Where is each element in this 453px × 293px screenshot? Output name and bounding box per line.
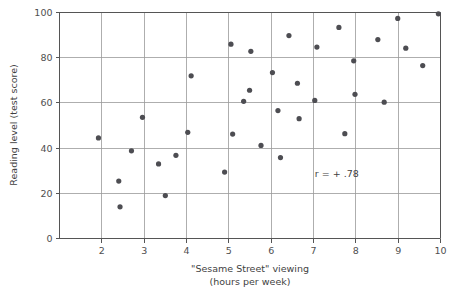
- correlation-annotation: r = + .78: [315, 168, 359, 179]
- data-point: [228, 42, 233, 47]
- y-tick-label: 100: [34, 7, 52, 18]
- data-point: [278, 155, 283, 160]
- chart-canvas: 2345678910 020406080100 r = + .78 "Sesam…: [0, 0, 453, 293]
- data-point: [258, 143, 263, 148]
- data-point: [163, 193, 168, 198]
- x-tick-label: 9: [395, 245, 401, 256]
- y-axis-title: Reading level (test score): [8, 64, 19, 185]
- data-point: [185, 130, 190, 135]
- data-point: [286, 33, 291, 38]
- plot-frame: [60, 13, 441, 239]
- data-point: [275, 108, 280, 113]
- data-point: [156, 161, 161, 166]
- x-tick-label: 8: [353, 245, 359, 256]
- plot-border: [60, 13, 441, 239]
- x-tick-label: 2: [99, 245, 105, 256]
- data-point: [342, 131, 347, 136]
- data-point: [247, 88, 252, 93]
- y-tick-label: 80: [40, 52, 52, 63]
- y-tick-label: 40: [40, 143, 52, 154]
- data-points: [96, 11, 441, 209]
- data-point: [351, 58, 356, 63]
- y-tick-label: 0: [46, 233, 52, 244]
- x-tick-label: 3: [141, 245, 147, 256]
- data-point: [375, 37, 380, 42]
- data-point: [403, 46, 408, 51]
- gridlines: [60, 13, 441, 239]
- data-point: [382, 100, 387, 105]
- x-axis-tick-labels: 2345678910: [99, 245, 447, 256]
- data-point: [140, 115, 145, 120]
- y-tick-label: 20: [40, 188, 52, 199]
- y-tick-label: 60: [40, 97, 52, 108]
- chart-annotations: r = + .78: [315, 168, 359, 179]
- x-axis-title-line1: "Sesame Street" viewing: [191, 263, 309, 274]
- y-axis-tick-labels: 020406080100: [34, 7, 52, 244]
- data-point: [222, 169, 227, 174]
- data-point: [295, 81, 300, 86]
- x-axis-ticks: [102, 239, 441, 243]
- data-point: [129, 148, 134, 153]
- data-point: [420, 63, 425, 68]
- x-axis-title-line2: (hours per week): [210, 276, 291, 287]
- data-point: [96, 135, 101, 140]
- x-tick-label: 7: [310, 245, 316, 256]
- data-point: [312, 98, 317, 103]
- data-point: [270, 70, 275, 75]
- data-point: [352, 92, 357, 97]
- scatter-plot-figure: 2345678910 020406080100 r = + .78 "Sesam…: [0, 0, 453, 293]
- data-point: [189, 73, 194, 78]
- x-tick-label: 6: [268, 245, 274, 256]
- data-point: [230, 131, 235, 136]
- data-point: [336, 25, 341, 30]
- data-point: [248, 49, 253, 54]
- data-point: [436, 11, 441, 16]
- data-point: [173, 153, 178, 158]
- x-tick-label: 4: [183, 245, 189, 256]
- x-tick-label: 10: [434, 245, 446, 256]
- data-point: [116, 178, 121, 183]
- y-axis-ticks: [56, 13, 60, 239]
- x-tick-label: 5: [226, 245, 232, 256]
- data-point: [117, 204, 122, 209]
- data-point: [395, 16, 400, 21]
- data-point: [297, 116, 302, 121]
- data-point: [241, 99, 246, 104]
- data-point: [314, 44, 319, 49]
